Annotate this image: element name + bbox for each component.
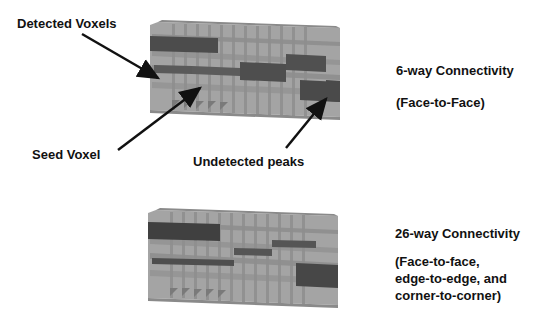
label-detected-voxels: Detected Voxels — [17, 16, 116, 31]
label-undetected-peaks: Undetected peaks — [193, 154, 304, 169]
panel-26way-description-line3: corner-to-corner) — [395, 288, 501, 303]
panel-26way-title: 26-way Connectivity — [395, 226, 520, 241]
voxel-block-26way — [148, 208, 338, 308]
arrow-detected-voxels — [82, 34, 158, 78]
label-seed-voxel: Seed Voxel — [32, 147, 100, 162]
panel-26way-description-line1: (Face-to-face, — [395, 254, 480, 269]
panel-6way-title: 6-way Connectivity — [396, 63, 514, 78]
panel-6way-description: (Face-to-Face) — [396, 95, 485, 110]
panel-26way-description-line2: edge-to-edge, and — [395, 271, 507, 286]
